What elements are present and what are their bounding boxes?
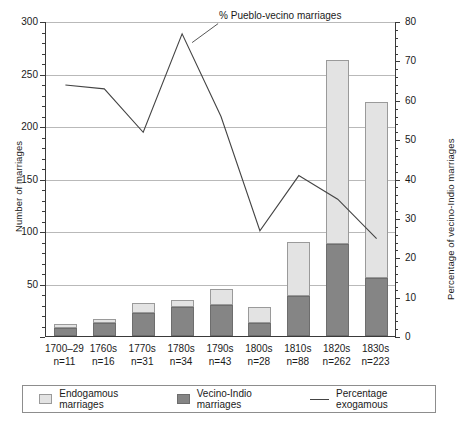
y-axis-left-tick bbox=[40, 75, 45, 76]
y-axis-left-tick bbox=[40, 22, 45, 23]
y-axis-left-tick-label: 100 bbox=[4, 227, 38, 237]
legend-item: Percentage exogamous bbox=[310, 388, 435, 410]
y-axis-left-minor-tick bbox=[42, 316, 45, 317]
y-axis-left-minor-tick bbox=[42, 54, 45, 55]
y-axis-right-tick-label: 30 bbox=[405, 214, 435, 224]
y-axis-right-tick-label: 80 bbox=[405, 17, 435, 27]
y-axis-left-tick-label: 250 bbox=[4, 70, 38, 80]
y-axis-right-tick bbox=[395, 180, 400, 181]
legend-item: Vecino-Indio marriages bbox=[177, 388, 293, 410]
y-axis-right-minor-tick bbox=[395, 321, 398, 322]
y-axis-right-tick bbox=[395, 61, 400, 62]
y-axis-left-minor-tick bbox=[42, 211, 45, 212]
annotation-pueblo-vecino: % Pueblo-vecino marriages bbox=[219, 10, 341, 21]
y-axis-right-minor-tick bbox=[395, 172, 398, 173]
y-axis-left-tick-label: 150 bbox=[4, 175, 38, 185]
x-axis-sample-size: n=223 bbox=[348, 355, 404, 368]
y-axis-right-minor-tick bbox=[395, 211, 398, 212]
y-axis-right-minor-tick bbox=[395, 235, 398, 236]
y-axis-left-minor-tick bbox=[42, 243, 45, 244]
y-axis-left-minor-tick bbox=[42, 148, 45, 149]
y-axis-left-minor-tick bbox=[42, 106, 45, 107]
x-axis-label: 1830sn=223 bbox=[348, 342, 404, 368]
y-axis-left-minor-tick bbox=[42, 274, 45, 275]
y-axis-right-minor-tick bbox=[395, 195, 398, 196]
y-axis-left-minor-tick bbox=[42, 159, 45, 160]
y-axis-right-minor-tick bbox=[395, 156, 398, 157]
y-axis-right-tick-label: 60 bbox=[405, 96, 435, 106]
y-axis-right-tick-label: 0 bbox=[405, 332, 435, 342]
y-axis-right-minor-tick bbox=[395, 46, 398, 47]
y-axis-right-tick bbox=[395, 258, 400, 259]
y-axis-right-tick-label: 20 bbox=[405, 253, 435, 263]
y-axis-right-tick bbox=[395, 22, 400, 23]
y-axis-right-minor-tick bbox=[395, 148, 398, 149]
y-axis-right-minor-tick bbox=[395, 290, 398, 291]
legend-swatch-vec bbox=[177, 394, 190, 404]
y-axis-left-minor-tick bbox=[42, 169, 45, 170]
y-axis-left-minor-tick bbox=[42, 138, 45, 139]
y-axis-right-minor-tick bbox=[395, 38, 398, 39]
y-axis-right-minor-tick bbox=[395, 187, 398, 188]
plot-area bbox=[45, 22, 395, 337]
y-axis-right-minor-tick bbox=[395, 203, 398, 204]
y-axis-left-minor-tick bbox=[42, 96, 45, 97]
y-axis-left-tick bbox=[40, 180, 45, 181]
y-axis-left-tick bbox=[40, 337, 45, 338]
y-axis-right-minor-tick bbox=[395, 306, 398, 307]
y-axis-right-minor-tick bbox=[395, 85, 398, 86]
y-axis-right-tick bbox=[395, 101, 400, 102]
y-axis-right-minor-tick bbox=[395, 243, 398, 244]
y-axis-right-minor-tick bbox=[395, 313, 398, 314]
x-axis-decade: 1830s bbox=[348, 342, 404, 355]
y-axis-right-minor-tick bbox=[395, 274, 398, 275]
y-axis-left-minor-tick bbox=[42, 327, 45, 328]
legend-swatch-line bbox=[310, 399, 329, 400]
y-axis-left-tick-label: 50 bbox=[4, 280, 38, 290]
y-axis-left-minor-tick bbox=[42, 306, 45, 307]
y-axis-right-minor-tick bbox=[395, 93, 398, 94]
y-axis-left-title: Number of marriages bbox=[13, 141, 24, 232]
y-axis-right-tick bbox=[395, 337, 400, 338]
y-axis-right-minor-tick bbox=[395, 282, 398, 283]
y-axis-left-minor-tick bbox=[42, 190, 45, 191]
legend-label: Endogamous marriages bbox=[59, 388, 158, 410]
y-axis-left-minor-tick bbox=[42, 85, 45, 86]
legend-label: Vecino-Indio marriages bbox=[197, 388, 293, 410]
y-axis-left-minor-tick bbox=[42, 222, 45, 223]
y-axis-left-minor-tick bbox=[42, 33, 45, 34]
y-axis-right-minor-tick bbox=[395, 124, 398, 125]
y-axis-right-tick-label: 70 bbox=[405, 56, 435, 66]
y-axis-left-tick bbox=[40, 232, 45, 233]
y-axis-right-minor-tick bbox=[395, 132, 398, 133]
legend-item: Endogamous marriages bbox=[39, 388, 159, 410]
y-axis-left-tick-label: 200 bbox=[4, 122, 38, 132]
y-axis-right-tick-label: 10 bbox=[405, 293, 435, 303]
y-axis-right-minor-tick bbox=[395, 227, 398, 228]
y-axis-right-minor-tick bbox=[395, 54, 398, 55]
y-axis-right-tick bbox=[395, 219, 400, 220]
y-axis-left-minor-tick bbox=[42, 64, 45, 65]
y-axis-left-tick bbox=[40, 127, 45, 128]
y-axis-left-minor-tick bbox=[42, 43, 45, 44]
y-axis-right-minor-tick bbox=[395, 30, 398, 31]
y-axis-left-tick bbox=[40, 285, 45, 286]
legend-label: Percentage exogamous bbox=[336, 388, 435, 410]
y-axis-right-tick bbox=[395, 298, 400, 299]
percentage-line-series bbox=[46, 22, 396, 337]
y-axis-right-title: Percentage of vecino-Indio marriages bbox=[445, 139, 456, 301]
y-axis-left-minor-tick bbox=[42, 295, 45, 296]
y-axis-right-minor-tick bbox=[395, 266, 398, 267]
y-axis-left-tick-label: 300 bbox=[4, 17, 38, 27]
chart-figure: Number of marriages Percentage of vecino… bbox=[0, 0, 457, 421]
y-axis-left-minor-tick bbox=[42, 201, 45, 202]
y-axis-right-tick bbox=[395, 140, 400, 141]
legend-swatch-endo bbox=[39, 394, 52, 404]
y-axis-right-minor-tick bbox=[395, 109, 398, 110]
chart-legend: Endogamous marriagesVecino-Indio marriag… bbox=[22, 385, 436, 413]
y-axis-right-minor-tick bbox=[395, 329, 398, 330]
y-axis-right-tick-label: 40 bbox=[405, 175, 435, 185]
y-axis-right-tick-label: 50 bbox=[405, 135, 435, 145]
y-axis-right-minor-tick bbox=[395, 117, 398, 118]
y-axis-right-minor-tick bbox=[395, 77, 398, 78]
